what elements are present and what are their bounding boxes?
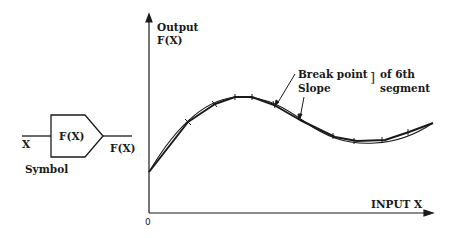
x-axis-label: INPUT X (371, 198, 422, 210)
symbol-caption: Symbol (25, 163, 68, 175)
piecewise-approximation (149, 97, 433, 172)
annotation-slope: Slope (298, 82, 331, 94)
break-point-leader (277, 74, 295, 104)
annotation-break-point: Break point (298, 68, 368, 80)
x-axis-arrow-icon (424, 210, 433, 216)
y-axis-label-output: Output (157, 21, 198, 33)
annotation-of-6th: of 6th (380, 68, 415, 80)
symbol-output-label: F(X) (110, 142, 136, 154)
origin-label: 0 (145, 216, 151, 228)
symbol-input-label: X (22, 138, 30, 150)
y-axis-arrow-icon (146, 14, 152, 22)
y-axis-label-fx: F(X) (157, 34, 183, 46)
annotation-bracket: ] (370, 72, 375, 84)
symbol-block-label: F(X) (59, 130, 85, 142)
annotation-segment: segment (380, 82, 430, 94)
function-curve (149, 97, 433, 172)
